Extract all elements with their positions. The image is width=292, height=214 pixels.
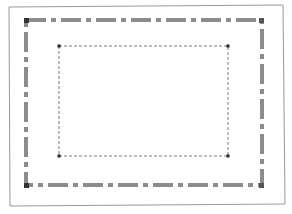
corner-marker-top-right <box>259 18 264 23</box>
inner-dashed-rectangle <box>59 46 228 156</box>
inner-corner-top-right <box>227 45 230 48</box>
corner-marker-bottom-left <box>24 183 29 188</box>
inner-corner-top-left <box>58 45 61 48</box>
inner-corner-bottom-left <box>58 155 61 158</box>
corner-marker-bottom-right <box>259 183 264 188</box>
diagram-canvas <box>0 0 292 214</box>
diagram-svg <box>0 0 292 214</box>
outer-frame <box>9 5 285 206</box>
corner-marker-top-left <box>24 18 29 23</box>
inner-corner-bottom-right <box>227 155 230 158</box>
